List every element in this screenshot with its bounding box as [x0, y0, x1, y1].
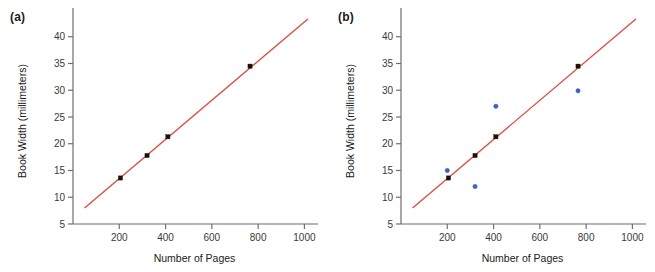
y-tick-label: 40 — [54, 31, 66, 42]
y-tick-label: 30 — [54, 85, 66, 96]
y-tick-label: 15 — [54, 165, 66, 176]
x-tick-label: 600 — [532, 232, 549, 243]
x-tick-label: 1000 — [621, 232, 644, 243]
data-point-predicted — [473, 184, 477, 188]
panel-a: (a) 5101520253035402004006008001000Numbe… — [0, 0, 327, 272]
data-point-predicted — [494, 104, 498, 108]
x-tick-label: 400 — [485, 232, 502, 243]
figure-scatter-pair: (a) 5101520253035402004006008001000Numbe… — [0, 0, 655, 272]
y-tick-label: 30 — [382, 85, 394, 96]
panel-a-plot: 5101520253035402004006008001000Number of… — [0, 0, 327, 272]
x-tick-label: 800 — [578, 232, 595, 243]
data-point-predicted — [576, 89, 580, 93]
data-point-observed — [446, 176, 450, 180]
y-tick-label: 5 — [387, 219, 393, 230]
y-tick-label: 20 — [54, 138, 66, 149]
data-point-observed — [248, 64, 252, 68]
x-tick-label: 200 — [439, 232, 456, 243]
data-point-observed — [576, 64, 580, 68]
data-point-observed — [145, 153, 149, 157]
y-tick-label: 10 — [382, 192, 394, 203]
y-tick-label: 25 — [382, 112, 394, 123]
data-point-predicted — [445, 168, 449, 172]
y-tick-label: 25 — [54, 112, 66, 123]
y-tick-label: 5 — [59, 219, 65, 230]
y-axis-title: Book Width (millimeters) — [344, 64, 356, 178]
data-point-observed — [473, 153, 477, 157]
x-tick-label: 400 — [157, 232, 174, 243]
x-axis-title: Number of Pages — [482, 252, 564, 264]
y-tick-label: 15 — [382, 165, 394, 176]
y-tick-label: 10 — [54, 192, 66, 203]
x-axis-title: Number of Pages — [154, 252, 236, 264]
y-tick-label: 35 — [382, 58, 394, 69]
x-tick-label: 800 — [250, 232, 267, 243]
y-tick-label: 40 — [382, 31, 394, 42]
panel-b-plot: 5101520253035402004006008001000Number of… — [328, 0, 655, 272]
x-tick-label: 600 — [204, 232, 221, 243]
y-tick-label: 20 — [382, 138, 394, 149]
x-tick-label: 1000 — [293, 232, 316, 243]
panel-b: (b) 5101520253035402004006008001000Numbe… — [328, 0, 655, 272]
data-point-observed — [166, 135, 170, 139]
regression-line — [413, 19, 636, 208]
x-tick-label: 200 — [111, 232, 128, 243]
data-point-observed — [118, 176, 122, 180]
data-point-observed — [494, 135, 498, 139]
y-axis-title: Book Width (millimeters) — [16, 64, 28, 178]
y-tick-label: 35 — [54, 58, 66, 69]
regression-line — [85, 19, 308, 208]
